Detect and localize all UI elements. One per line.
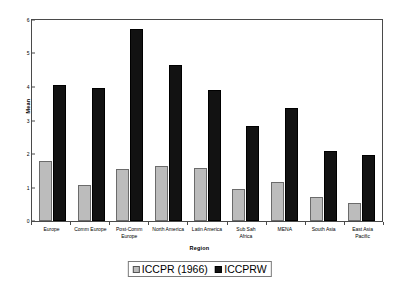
x-axis-tick-mark (148, 222, 149, 225)
bar-iccprw[interactable] (130, 29, 143, 221)
bar-iccpr-1966[interactable] (78, 185, 91, 221)
x-axis-tick-label: East Asia Pacific (343, 226, 382, 239)
black-swatch (215, 266, 222, 273)
y-axis-tick-label: 1 (27, 185, 30, 190)
bar-iccpr-1966[interactable] (348, 203, 361, 221)
bar-iccprw[interactable] (208, 90, 221, 221)
bar-iccprw[interactable] (285, 108, 298, 221)
bar-group-container (32, 20, 382, 221)
bar-group (342, 20, 381, 221)
legend-item-label: ICCPRW (224, 264, 266, 275)
bar-iccprw[interactable] (324, 151, 337, 221)
bar-group (110, 20, 149, 221)
x-axis-tick-label: Sub Sah Africa (226, 226, 265, 239)
x-axis-tick-mark (70, 222, 71, 225)
bar-group (33, 20, 72, 221)
x-axis-tick-mark (305, 222, 306, 225)
x-axis-tick-label: South Asia (304, 226, 343, 239)
legend-item[interactable]: ICCPRW (215, 264, 267, 275)
x-axis-tick-mark (383, 222, 384, 225)
y-axis-tick-label: 2 (27, 151, 30, 156)
bar-group (72, 20, 111, 221)
light-gray-swatch (132, 266, 139, 273)
x-axis-tick-mark (109, 222, 110, 225)
x-axis-tick-mark (344, 222, 345, 225)
bar-group (265, 20, 304, 221)
bar-iccprw[interactable] (246, 126, 259, 221)
bar-group (226, 20, 265, 221)
bar-iccpr-1966[interactable] (155, 166, 168, 221)
chart-legend: ICCPR (1966)ICCPRW (127, 261, 271, 277)
bar-iccpr-1966[interactable] (310, 197, 323, 221)
bar-iccpr-1966[interactable] (116, 169, 129, 221)
x-axis-tick-mark (31, 222, 32, 225)
legend-item-label: ICCPR (1966) (142, 264, 208, 275)
bar-iccprw[interactable] (362, 155, 375, 221)
y-axis-tick-label: 6 (27, 18, 30, 23)
plot-area: 0123456 (31, 19, 383, 222)
bar-iccprw[interactable] (169, 65, 182, 221)
bar-iccpr-1966[interactable] (271, 182, 284, 221)
x-axis-tick-label: Latin America (188, 226, 227, 239)
x-axis-tick-mark (187, 222, 188, 225)
x-axis-tick-label: Europe (32, 226, 71, 239)
y-axis-tick-label: 3 (27, 118, 30, 123)
bar-group (188, 20, 227, 221)
x-axis-tick-mark (266, 222, 267, 225)
x-axis-tick-mark (227, 222, 228, 225)
bar-iccpr-1966[interactable] (232, 189, 245, 221)
x-axis-tick-label: MENA (265, 226, 304, 239)
bar-iccpr-1966[interactable] (194, 168, 207, 221)
x-axis-tick-label: North America (149, 226, 188, 239)
bar-iccprw[interactable] (92, 88, 105, 221)
y-axis-tick-label: 4 (27, 84, 30, 89)
x-axis-tick-labels: EuropeComm EuropePost-Comm EuropeNorth A… (31, 226, 383, 239)
legend-item[interactable]: ICCPR (1966) (132, 264, 207, 275)
x-axis-tick-label: Comm Europe (71, 226, 110, 239)
x-axis-title: Region (0, 245, 399, 251)
x-axis-tick-label: Post-Comm Europe (110, 226, 149, 239)
bar-group (149, 20, 188, 221)
y-axis-tick-label: 5 (27, 51, 30, 56)
bar-iccpr-1966[interactable] (39, 161, 52, 221)
y-axis-tick-label: 0 (27, 219, 30, 224)
bar-chart-figure: Mean 0123456 EuropeComm EuropePost-Comm … (0, 0, 399, 291)
bar-group (304, 20, 343, 221)
bar-iccprw[interactable] (53, 85, 66, 221)
